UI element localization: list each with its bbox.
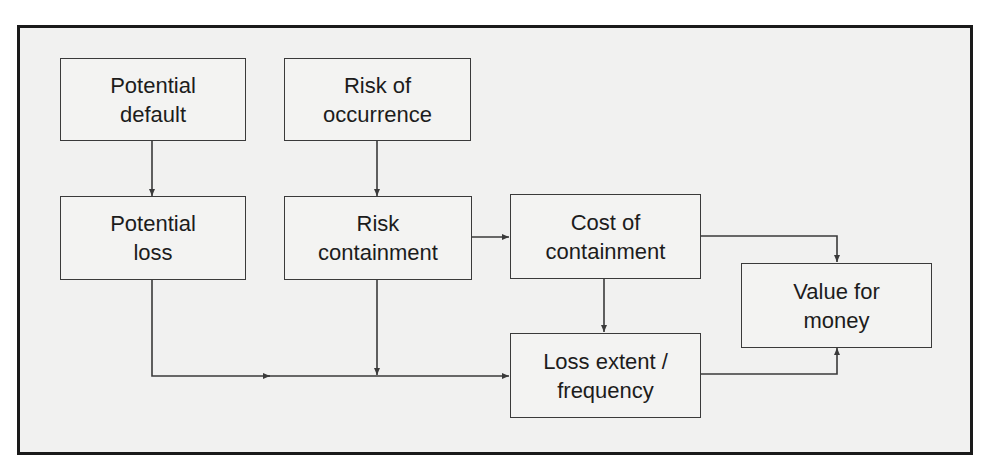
node-label-line: loss — [110, 238, 196, 267]
node-label-line: money — [793, 306, 879, 335]
node-label-line: Risk of — [323, 71, 432, 100]
node-potential-loss: Potentialloss — [60, 196, 246, 280]
node-loss-extent-frequency: Loss extent /frequency — [510, 333, 701, 418]
node-label-line: default — [110, 100, 196, 129]
node-label-line: containment — [318, 238, 438, 267]
node-risk-of-occurrence: Risk ofoccurrence — [284, 58, 471, 141]
node-label-line: Risk — [318, 209, 438, 238]
node-risk-containment: Riskcontainment — [284, 196, 472, 280]
node-label-line: containment — [546, 237, 666, 266]
node-label-line: Potential — [110, 71, 196, 100]
node-label-line: Cost of — [546, 208, 666, 237]
node-label-line: Potential — [110, 209, 196, 238]
node-cost-of-containment: Cost ofcontainment — [510, 194, 701, 279]
node-potential-default: Potentialdefault — [60, 58, 246, 141]
node-label-line: Loss extent / — [543, 347, 668, 376]
node-label-line: occurrence — [323, 100, 432, 129]
node-label-line: frequency — [543, 376, 668, 405]
node-label-line: Value for — [793, 277, 879, 306]
node-value-for-money: Value formoney — [741, 263, 932, 348]
